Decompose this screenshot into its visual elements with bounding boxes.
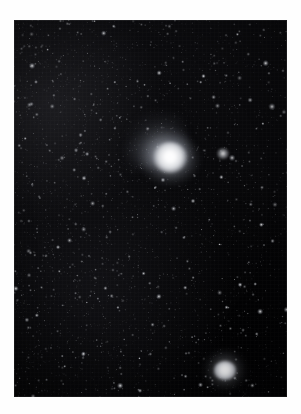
astronomy-photograph <box>14 20 287 397</box>
photo-page: Long-exposure night-sky photograph: a br… <box>0 0 301 414</box>
photo-edge <box>14 20 287 397</box>
